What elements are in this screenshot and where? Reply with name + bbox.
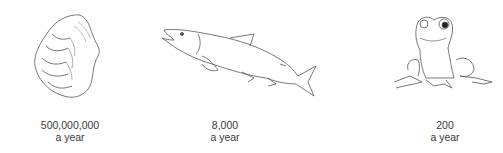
salmon-icon [158, 24, 318, 100]
salmon-unit: a year [195, 131, 255, 143]
frog-count: 200 [415, 119, 475, 131]
oyster-caption: 500,000,000 a year [20, 119, 120, 143]
oyster-icon [28, 10, 103, 100]
frog-unit: a year [415, 131, 475, 143]
frog-panel: 200 a year [340, 0, 503, 153]
frog-icon [388, 12, 500, 92]
oyster-count: 500,000,000 [20, 119, 120, 131]
frog-caption: 200 a year [415, 119, 475, 143]
oyster-panel: 500,000,000 a year [0, 0, 170, 153]
salmon-count: 8,000 [195, 119, 255, 131]
salmon-caption: 8,000 a year [195, 119, 255, 143]
salmon-panel: 8,000 a year [150, 0, 350, 153]
oyster-unit: a year [20, 131, 120, 143]
